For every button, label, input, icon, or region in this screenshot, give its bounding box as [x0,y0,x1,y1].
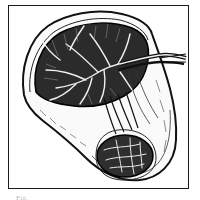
figure-caption: Fig. [16,194,28,200]
lower-organ [97,135,153,177]
anatomical-illustration [8,5,189,189]
